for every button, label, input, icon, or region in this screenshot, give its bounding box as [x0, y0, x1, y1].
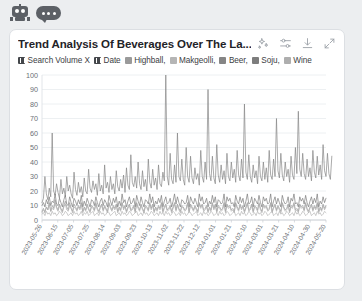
settings-sliders-icon[interactable] — [279, 37, 292, 50]
series-swatch-icon — [125, 57, 132, 64]
legend-series-list[interactable]: Highball,Makgeolli,Beer,Soju,Wine — [125, 56, 316, 65]
chat-bubble-icon — [36, 6, 61, 20]
y-axis-tick-label: 60 — [30, 128, 38, 137]
chart-card: Trend Analysis Of Beverages Over The La.… — [9, 29, 345, 290]
legend-y-axis-label: Search Volume X — [28, 56, 91, 65]
legend-item-wine[interactable]: Wine — [284, 56, 316, 65]
legend-item-makgeolli[interactable]: Makgeolli, — [170, 56, 220, 65]
series-swatch-icon — [284, 57, 291, 64]
y-axis-swatch-icon — [18, 57, 25, 64]
y-axis-tick-label: 30 — [30, 172, 38, 181]
series-swatch-icon — [219, 57, 226, 64]
y-axis-tick-label: 10 — [30, 201, 38, 210]
legend-series-label: Beer, — [229, 56, 248, 65]
legend-series-label: Makgeolli, — [179, 56, 215, 65]
chat-chart-screen: Trend Analysis Of Beverages Over The La.… — [0, 0, 362, 301]
y-axis-tick-label: 50 — [30, 143, 38, 152]
page-title: Trend Analysis Of Beverages Over The La.… — [18, 38, 251, 50]
legend-y-axis[interactable]: Search Volume X — [18, 56, 94, 65]
download-icon[interactable] — [301, 37, 314, 50]
assistant-avatar-row — [10, 4, 61, 22]
legend-x-axis-label: Date — [104, 56, 121, 65]
legend-item-beer[interactable]: Beer, — [219, 56, 251, 65]
legend-series-label: Soju, — [261, 56, 279, 65]
legend-series-label: Wine — [293, 56, 311, 65]
chart-toolbar — [251, 37, 336, 50]
legend-item-soju[interactable]: Soju, — [252, 56, 284, 65]
x-axis-swatch-icon — [94, 57, 101, 64]
y-axis-tick-label: 80 — [30, 99, 38, 108]
series-line-beer — [42, 75, 332, 203]
y-axis-tick-label: 90 — [30, 85, 38, 94]
series-swatch-icon — [252, 57, 259, 64]
y-axis-tick-label: 70 — [30, 114, 38, 123]
expand-icon[interactable] — [323, 37, 336, 50]
legend-series-label: Highball, — [134, 56, 165, 65]
chart-plot-area: 01020304050607080901002023-05-262023-06-… — [16, 71, 338, 276]
series-swatch-icon — [170, 57, 177, 64]
sparkle-icon[interactable] — [257, 37, 270, 50]
y-axis-tick-label: 20 — [30, 186, 38, 195]
chart-legend: Search Volume XDateHighball,Makgeolli,Be… — [10, 50, 344, 67]
line-chart[interactable]: 01020304050607080901002023-05-262023-06-… — [16, 71, 340, 276]
series-line-makgeolli — [42, 211, 326, 215]
legend-x-axis[interactable]: Date — [94, 56, 125, 65]
y-axis-tick-label: 40 — [30, 157, 38, 166]
y-axis-tick-label: 100 — [26, 71, 38, 80]
robot-icon — [10, 4, 30, 22]
legend-item-highball[interactable]: Highball, — [125, 56, 170, 65]
chart-card-header: Trend Analysis Of Beverages Over The La.… — [10, 30, 344, 50]
